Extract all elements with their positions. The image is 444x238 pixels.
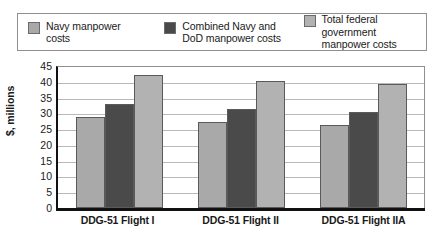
bar-chart-figure: Navy manpower costs Combined Navy and Do…: [0, 0, 444, 238]
legend-label-navy-manpower-costs: Navy manpower costs: [46, 20, 121, 45]
x-axis-tick-label: DDG-51 Flight II: [179, 214, 302, 226]
y-axis-tick-label: 40: [24, 77, 52, 87]
bar: [76, 117, 105, 208]
y-axis-tick-label: 10: [24, 171, 52, 181]
bar-group: [180, 67, 302, 208]
bar-group: [58, 67, 180, 208]
legend-label-combined-navy-dod-manpower-costs: Combined Navy and DoD manpower costs: [182, 20, 281, 45]
legend-label-total-federal-government-manpower-costs: Total federal government manpower costs: [322, 13, 426, 51]
chart-legend: Navy manpower costs Combined Navy and Do…: [17, 13, 427, 51]
legend-item-navy-manpower-costs: Navy manpower costs: [18, 20, 162, 45]
legend-swatch-navy-manpower-costs: [28, 22, 40, 34]
plot-wrapper: $, millions 454035302520151050 DDG-51 Fl…: [0, 60, 444, 238]
y-axis-tick-labels: 454035302520151050: [24, 66, 52, 208]
bar: [105, 104, 134, 208]
y-axis-tick-label: 20: [24, 140, 52, 150]
bar: [198, 122, 227, 208]
x-axis-tick-label: DDG-51 Flight I: [56, 214, 179, 226]
plot-area: [56, 66, 425, 208]
legend-item-combined-navy-dod-manpower-costs: Combined Navy and DoD manpower costs: [162, 20, 301, 45]
x-axis-tick-labels: DDG-51 Flight IDDG-51 Flight IIDDG-51 Fl…: [56, 214, 425, 226]
y-axis-tick-label: 15: [24, 156, 52, 166]
y-axis-tick-label: 35: [24, 93, 52, 103]
bar: [320, 125, 349, 208]
x-axis-tick-label: DDG-51 Flight IIA: [302, 214, 425, 226]
y-axis-tick-label: 25: [24, 124, 52, 134]
bar: [378, 84, 407, 208]
bar: [349, 112, 378, 208]
y-axis-tick-label: 45: [24, 61, 52, 71]
legend-swatch-total-federal-government-manpower-costs: [304, 15, 316, 27]
y-axis-tick-label: 0: [24, 203, 52, 213]
bar-group: [302, 67, 424, 208]
bar: [227, 109, 256, 208]
bar-groups: [58, 67, 424, 208]
y-axis-tick-label: 5: [24, 187, 52, 197]
y-axis-tick-label: 30: [24, 108, 52, 118]
bar: [256, 81, 285, 208]
x-axis-line: [56, 208, 425, 211]
bar: [134, 75, 163, 208]
legend-swatch-combined-navy-dod-manpower-costs: [164, 22, 176, 34]
y-axis-title: $, millions: [4, 120, 16, 136]
legend-item-total-federal-government-manpower-costs: Total federal government manpower costs: [302, 13, 426, 51]
